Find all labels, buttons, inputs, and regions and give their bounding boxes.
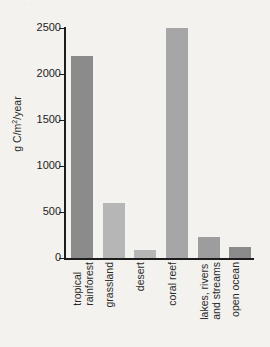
x-axis-category-labels: tropical rainforestgrasslanddesertcoral … (64, 262, 260, 347)
x-axis-category-label: coral reef (167, 262, 179, 306)
y-tick-label: 2000 (37, 67, 61, 79)
y-tick-label: 1500 (37, 113, 61, 125)
y-tick-label: 500 (43, 205, 61, 217)
bar (229, 247, 251, 258)
y-axis-line (64, 27, 66, 259)
x-axis-category-label: open ocean (230, 262, 242, 317)
y-tick-label: 0 (55, 251, 61, 263)
bar (198, 237, 220, 258)
x-axis-category-label: lakes, rivers and streams (199, 262, 222, 320)
x-axis-line (64, 258, 254, 260)
y-tick-label: 1000 (37, 159, 61, 171)
bar (103, 203, 125, 258)
y-axis-label: g C/m2/year (11, 74, 23, 174)
clipped-caption-text: · · · · (0, 0, 270, 9)
y-axis-label-pre: g C/m (11, 124, 23, 152)
bar (134, 250, 156, 258)
x-axis-category-label: tropical rainforest (72, 262, 95, 306)
bar (71, 56, 93, 258)
y-axis-label-exponent: 2 (11, 120, 18, 124)
bar-chart-figure: · · · · g C/m2/year 05001000150020002500… (0, 0, 270, 347)
y-axis-label-post: /year (11, 96, 23, 119)
plot-area: 05001000150020002500 (64, 28, 254, 258)
y-tick-label: 2500 (37, 21, 61, 33)
x-axis-category-label: desert (135, 262, 147, 291)
x-axis-category-label: grassland (104, 262, 116, 308)
bar (166, 28, 188, 258)
